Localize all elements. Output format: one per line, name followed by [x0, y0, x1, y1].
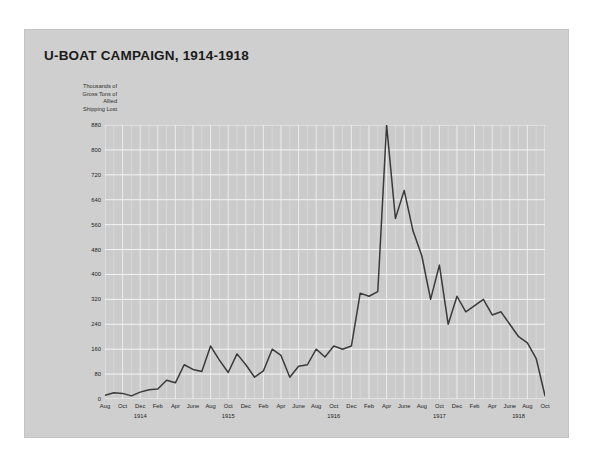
y-axis-tick-label: 480: [91, 247, 101, 253]
x-axis-year-label: 1915: [222, 413, 235, 419]
x-axis-tick-label: Apr: [382, 403, 391, 409]
y-axis-tick-label: 160: [91, 346, 101, 352]
x-axis-tick-label: June: [504, 403, 517, 409]
y-axis-caption-line-3: Allied: [33, 98, 117, 106]
x-axis-tick-label: Aug: [205, 403, 215, 409]
x-axis-year-label: 1916: [327, 413, 340, 419]
y-axis-tick-label: 80: [95, 371, 101, 377]
x-axis-tick-label: Aug: [417, 403, 427, 409]
plot-area: [105, 125, 545, 399]
y-axis-tick-label: 800: [91, 147, 101, 153]
y-axis-tick-label: 640: [91, 197, 101, 203]
gridlines: [105, 125, 545, 399]
y-axis-tick-label: 880: [91, 122, 101, 128]
y-axis-tick-label: 560: [91, 222, 101, 228]
y-axis-tick-label: 720: [91, 172, 101, 178]
x-axis-tick-label: Feb: [364, 403, 374, 409]
y-axis-caption: Thousands of Gross Tons of Allied Shippi…: [33, 83, 117, 113]
x-axis-year-label: 1914: [134, 413, 147, 419]
page-title: U-BOAT CAMPAIGN, 1914-1918: [44, 48, 249, 63]
x-axis-tick-label: Dec: [135, 403, 145, 409]
x-axis-tick-label: Oct: [224, 403, 233, 409]
x-axis-tick-label: Dec: [241, 403, 251, 409]
x-axis-tick-label: Apr: [171, 403, 180, 409]
x-axis-tick-label: Oct: [540, 403, 549, 409]
x-axis-tick-label: Oct: [435, 403, 444, 409]
x-axis-tick-label: Feb: [470, 403, 480, 409]
line-chart-svg: [105, 125, 545, 399]
y-axis-caption-line-2: Gross Tons of: [33, 91, 117, 99]
x-axis-tick-label: June: [187, 403, 200, 409]
y-axis-tick-label: 400: [91, 271, 101, 277]
x-axis-tick-label: Feb: [153, 403, 163, 409]
x-axis-tick-label: Aug: [100, 403, 110, 409]
y-axis-tick-label: 240: [91, 321, 101, 327]
x-axis-tick-label: Oct: [329, 403, 338, 409]
x-axis-tick-label: Apr: [276, 403, 285, 409]
x-axis-tick-label: Apr: [488, 403, 497, 409]
chart-plot: 080160240320400480560640720800880 AugOct…: [105, 125, 545, 399]
x-axis-year-label: 1918: [512, 413, 525, 419]
y-axis-tick-label: 320: [91, 296, 101, 302]
x-axis-tick-label: June: [398, 403, 411, 409]
y-axis-caption-line-1: Thousands of: [33, 83, 117, 91]
x-axis-tick-label: Feb: [258, 403, 268, 409]
x-axis-tick-label: Aug: [311, 403, 321, 409]
x-axis-tick-label: Aug: [522, 403, 532, 409]
x-axis-tick-label: June: [292, 403, 305, 409]
x-axis-tick-label: Dec: [346, 403, 356, 409]
x-axis-year-label: 1917: [433, 413, 446, 419]
x-axis-tick-label: Dec: [452, 403, 462, 409]
figure-card: U-BOAT CAMPAIGN, 1914-1918 Thousands of …: [25, 30, 568, 437]
y-axis-caption-line-4: Shipping Lost: [33, 106, 117, 114]
y-axis-tick-label: 0: [98, 396, 101, 402]
x-axis-tick-label: Oct: [118, 403, 127, 409]
